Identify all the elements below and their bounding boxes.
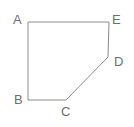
polygon-figure: A E D C B [0,0,134,127]
vertex-label-b: B [14,93,23,106]
vertex-label-d: D [114,55,123,68]
vertex-label-a: A [13,13,22,26]
vertex-label-c: C [61,105,70,118]
vertex-label-e: E [112,13,121,26]
polygon-outline [28,22,109,100]
